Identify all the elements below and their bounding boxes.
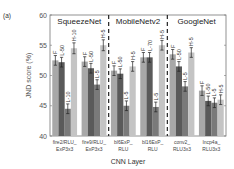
bar [182, 86, 188, 136]
y-tick-label: 50 [39, 72, 47, 79]
bar [82, 62, 88, 136]
bar-label: L-5 [153, 93, 159, 101]
bar-label: H-5 [218, 84, 224, 93]
bar [111, 71, 117, 136]
x-tick-label: bl16ExP_ [142, 139, 164, 145]
bar-label: H-5 [159, 30, 165, 39]
bar-label: L-50 [117, 56, 123, 67]
bar-label: H-10 [71, 29, 77, 41]
x-tick-label: bl6ExP_ [114, 139, 133, 145]
bar-label: L-50 [59, 45, 65, 56]
bar [117, 74, 123, 136]
bar [130, 66, 136, 136]
bar [159, 45, 165, 136]
model-section-title: SqueezeNet [57, 17, 102, 26]
x-tick-label: conv2_ [174, 139, 190, 145]
x-tick-label: Incp4a_ [202, 139, 220, 145]
x-tick-label: RLU3x3 [202, 146, 220, 152]
x-tick-label: ExP3x3 [56, 146, 73, 152]
bar [170, 54, 176, 136]
bar [71, 48, 77, 136]
x-tick-label: RLU [118, 146, 128, 152]
model-section-title: GoogleNet [178, 17, 217, 26]
bar-label: L-5 [123, 91, 129, 99]
model-section-title: MobileNetv2 [116, 17, 161, 26]
x-axis-label: CNN Layer [111, 158, 146, 166]
x-tick-label: fire9/RLU_ [82, 139, 106, 145]
bar [100, 45, 106, 136]
bar [88, 68, 94, 136]
bar-label: L-70 [147, 40, 153, 51]
y-axis-label: JND score (%) [25, 53, 33, 99]
bar [188, 53, 194, 136]
x-tick-label: fire2/RLU_ [53, 139, 77, 145]
bar [146, 57, 152, 136]
x-tick-label: ExP3x3 [85, 146, 102, 152]
bar-label: L-50 [88, 51, 94, 62]
y-tick-label: 45 [39, 102, 47, 109]
bar [199, 91, 205, 136]
bar [140, 57, 146, 136]
x-tick-label: RLU [148, 146, 158, 152]
x-tick-label: RLU3x3 [173, 146, 191, 152]
bar-label: L-10 [65, 91, 71, 102]
bar-label: H-5 [188, 37, 194, 46]
y-tick-label: 60 [39, 12, 47, 19]
bar [218, 100, 224, 136]
bar [176, 66, 182, 136]
bar [94, 85, 100, 136]
bar-label: L-5 [182, 72, 188, 80]
bar [58, 62, 64, 136]
bar-label: L-5 [211, 88, 217, 96]
bar-label: H-5 [130, 51, 136, 60]
y-tick-label: 40 [39, 133, 47, 140]
bar-label: L-5 [94, 70, 100, 78]
bar-label: L-50 [205, 84, 211, 95]
bar-label: H-5 [100, 29, 106, 38]
y-tick-label: 55 [39, 42, 47, 49]
bar [52, 60, 58, 136]
bar-chart: 4045505560JND score (%)FL-50L-10H-10fire… [0, 0, 234, 169]
bar [205, 101, 211, 136]
bar-label: L-50 [176, 49, 182, 60]
